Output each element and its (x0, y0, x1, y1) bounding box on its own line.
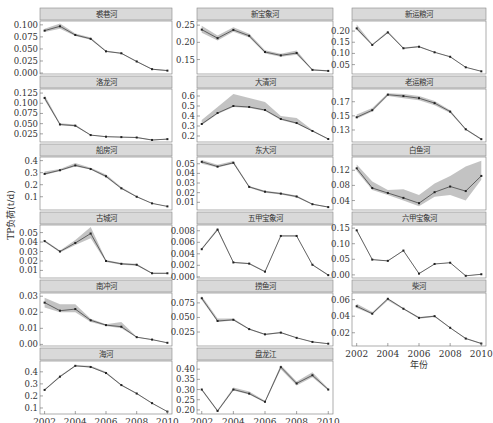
data-point (74, 365, 76, 367)
data-point (418, 317, 420, 319)
data-point (136, 264, 138, 266)
data-point (387, 260, 389, 262)
data-point (434, 191, 436, 193)
data-point (248, 393, 250, 395)
data-point (105, 136, 107, 138)
data-point (248, 328, 250, 330)
panel-1: 新宝象河0.150.200.25 (176, 8, 333, 74)
data-point (232, 319, 234, 321)
data-point (74, 164, 76, 166)
data-point (387, 94, 389, 96)
y-tick-label: 0.05 (176, 159, 195, 169)
y-tick-label: 0.008 (171, 226, 195, 236)
y-tick-label: 0.15 (176, 55, 195, 65)
panel-6: 船房河0.10.20.30.4 (24, 144, 172, 210)
data-point (248, 106, 250, 108)
data-point (387, 298, 389, 300)
data-point (217, 37, 219, 39)
data-point (166, 138, 168, 140)
data-point (232, 389, 234, 391)
data-point (296, 52, 298, 54)
x-tick-label: 2002 (345, 349, 368, 359)
data-point (296, 196, 298, 198)
panel-7: 东大河0.010.020.030.040.05 (176, 144, 333, 210)
panel-8: 白鱼河0.040.080.12 (331, 144, 486, 210)
data-point (217, 166, 219, 168)
panel-title: 船房河 (96, 145, 118, 155)
panel-plot-area (40, 157, 172, 210)
x-tick-label: 2004 (376, 349, 399, 359)
data-point (90, 168, 92, 170)
y-tick-label: 0.01 (19, 265, 38, 275)
data-point (296, 122, 298, 124)
y-tick-label: 0.100 (14, 20, 38, 30)
y-tick-label: 0.1 (24, 403, 38, 413)
panel-0: 裘巷河0.0000.0250.0500.0750.100 (14, 8, 172, 78)
y-tick-label: 0.20 (176, 405, 195, 415)
y-tick-label: 0.6 (181, 91, 195, 101)
data-point (296, 235, 298, 237)
y-tick-label: 0.08 (331, 180, 350, 190)
data-point (418, 97, 420, 99)
panel-plot-area (40, 361, 172, 414)
x-tick-label: 2010 (317, 417, 340, 423)
y-tick-label: 0.06 (331, 295, 350, 305)
data-point (449, 56, 451, 58)
panel-plot-area (40, 21, 172, 74)
y-tick-label: 0.02 (19, 256, 38, 266)
data-point (166, 205, 168, 207)
y-tick-label: 0.10 (331, 239, 350, 249)
data-point (387, 31, 389, 33)
y-tick-label: 0.3 (181, 121, 195, 131)
data-point (402, 308, 404, 310)
y-tick-label: 0.006 (171, 237, 195, 247)
panel-title: 柴河 (412, 281, 427, 291)
data-point (371, 109, 373, 111)
data-point (201, 248, 203, 250)
data-point (418, 273, 420, 275)
y-tick-label: 0.10 (331, 48, 350, 58)
data-point (59, 169, 61, 171)
data-point (280, 235, 282, 237)
data-point (434, 51, 436, 53)
data-point (311, 264, 313, 266)
panel-title: 盘龙江 (255, 349, 277, 359)
data-point (74, 242, 76, 244)
data-point (264, 333, 266, 335)
x-tick-label: 2004 (64, 417, 87, 423)
y-tick-label: 0.2 (24, 391, 38, 401)
data-point (311, 203, 313, 205)
y-tick-label: 0.3 (24, 379, 38, 389)
data-point (44, 240, 46, 242)
y-tick-label: 0.12 (331, 165, 350, 175)
data-point (264, 271, 266, 273)
data-point (434, 102, 436, 104)
panel-title: 东大河 (255, 145, 277, 155)
data-point (465, 66, 467, 68)
data-point (434, 263, 436, 265)
data-point (371, 44, 373, 46)
data-point (120, 52, 122, 54)
panel-13: 捞鱼河0.0250.0500.075 (171, 280, 333, 346)
data-point (151, 139, 153, 141)
data-point (280, 193, 282, 195)
y-tick-label: 0.050 (171, 312, 195, 322)
data-point (356, 229, 358, 231)
y-tick-label: 0.050 (14, 44, 38, 54)
data-point (90, 319, 92, 321)
y-tick-label: 0.2 (181, 131, 195, 141)
data-point (232, 162, 234, 164)
data-point (356, 167, 358, 169)
data-point (44, 30, 46, 32)
data-point (465, 338, 467, 340)
data-point (59, 310, 61, 312)
data-point (105, 372, 107, 374)
y-tick-label: 0.004 (171, 249, 195, 259)
y-tick-label: 0.35 (176, 374, 195, 384)
panel-title: 新运粮河 (405, 9, 434, 19)
panel-plot-area (197, 21, 333, 74)
data-point (280, 332, 282, 334)
panel-title: 海河 (99, 349, 114, 359)
data-point (387, 192, 389, 194)
data-point (248, 35, 250, 37)
